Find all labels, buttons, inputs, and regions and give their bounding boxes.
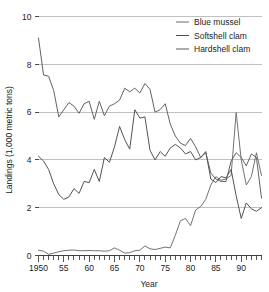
x-tick-label: 60 (84, 263, 94, 273)
data-series (39, 38, 262, 254)
y-tick-label: 2 (27, 203, 32, 213)
x-tick-label: 80 (186, 263, 196, 273)
legend-label: Hardshell clam (194, 44, 250, 54)
y-tick-label: 4 (27, 155, 32, 165)
y-axis-tick-labels: 0246810 (22, 12, 32, 261)
chart-legend: Blue musselSoftshell clamHardshell clam (176, 17, 250, 54)
x-tick-label: 55 (59, 263, 69, 273)
legend-label: Blue mussel (194, 17, 240, 27)
y-tick-label: 0 (27, 251, 32, 261)
x-tick-label: 70 (135, 263, 145, 273)
x-axis-title: Year (140, 279, 157, 289)
x-axis-ticks (39, 256, 262, 262)
y-tick-label: 8 (27, 60, 32, 70)
x-tick-label: 65 (110, 263, 120, 273)
y-tick-label: 6 (27, 107, 32, 117)
x-axis-tick-labels: 19505560657075808590 (29, 263, 246, 273)
series-line (39, 110, 262, 219)
x-tick-label: 85 (211, 263, 221, 273)
line-chart: 0246810 19505560657075808590 Blue mussel… (0, 0, 269, 292)
y-axis-ticks (35, 17, 39, 256)
series-line (39, 113, 262, 255)
series-line (39, 38, 262, 198)
legend-label: Softshell clam (194, 31, 247, 41)
y-axis-title: Landings (1,000 metric tons) (4, 86, 14, 194)
x-tick-label: 1950 (29, 263, 48, 273)
chart-container: 0246810 19505560657075808590 Blue mussel… (0, 0, 269, 292)
x-tick-label: 90 (236, 263, 246, 273)
x-tick-label: 75 (160, 263, 170, 273)
y-tick-label: 10 (22, 12, 32, 22)
